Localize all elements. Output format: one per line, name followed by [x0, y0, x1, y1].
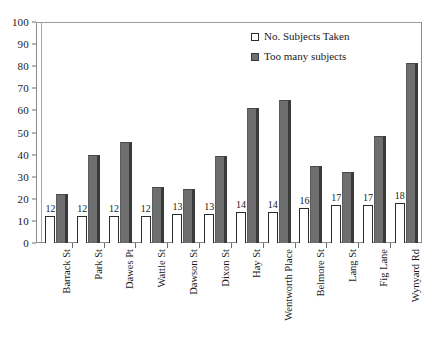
- y-axis: 0102030405060708090100: [0, 22, 36, 243]
- bar-value-label: 13: [172, 202, 182, 212]
- y-axis-tick-mark: [32, 66, 36, 67]
- y-axis-tick: 20: [18, 193, 36, 204]
- legend-item-label: Too many subjects: [264, 51, 346, 62]
- x-axis-category-label: Dawson St: [189, 249, 200, 295]
- bars-layer: 121212121313141416171718: [41, 22, 422, 243]
- bar-too-many-subjects: [279, 100, 291, 243]
- x-axis-labels: Barrack StPark StDawes PtWattle StDawson…: [41, 249, 422, 345]
- bar-subjects-taken: 12: [109, 216, 119, 243]
- y-axis-tick: 40: [18, 149, 36, 160]
- y-axis-tick-label: 70: [18, 83, 32, 94]
- y-axis-tick-label: 60: [18, 105, 32, 116]
- x-axis-label-cell: Wynyard Rd: [390, 249, 422, 345]
- y-axis-tick: 90: [18, 39, 36, 50]
- filled-square-icon: [251, 53, 259, 61]
- bar-too-many-subjects: [406, 63, 418, 243]
- x-axis-tick-mark: [200, 243, 232, 248]
- bar-value-label: 17: [363, 193, 373, 203]
- x-axis-tick-mark: [296, 243, 328, 248]
- x-axis-label-cell: Dixon St: [200, 249, 232, 345]
- bar-too-many-subjects: [247, 108, 259, 243]
- y-axis-tick-label: 30: [18, 171, 32, 182]
- x-axis-label-cell: Belmore St: [295, 249, 327, 345]
- y-axis-tick-label: 0: [23, 238, 32, 249]
- bar-subjects-taken: 14: [268, 212, 278, 243]
- y-axis-tick-label: 100: [12, 17, 32, 28]
- bar-too-many-subjects: [310, 166, 322, 243]
- bar-subjects-taken: 17: [363, 205, 373, 243]
- x-axis-category-label: Lang St: [348, 249, 359, 282]
- bar-group: 13: [168, 22, 200, 243]
- y-axis-tick: 60: [18, 105, 36, 116]
- y-axis-tick-mark: [32, 220, 36, 221]
- x-axis-category-label: Wynyard Rd: [411, 249, 422, 302]
- y-axis-tick: 0: [23, 238, 36, 249]
- x-axis-category-label: Dixon St: [221, 249, 232, 287]
- y-axis-tick-mark: [32, 44, 36, 45]
- x-axis-label-cell: Lang St: [327, 249, 359, 345]
- x-axis-category-label: Barrack St: [62, 249, 73, 294]
- x-axis-label-cell: Hay St: [232, 249, 264, 345]
- x-axis-category-label: Fig Lane: [380, 249, 391, 287]
- legend-item: Too many subjects: [251, 51, 350, 62]
- y-axis-tick-label: 10: [18, 215, 32, 226]
- bar-too-many-subjects: [120, 142, 132, 243]
- bar-subjects-taken: 18: [395, 203, 405, 243]
- bar-value-label: 12: [141, 204, 151, 214]
- x-axis-category-label: Wentworth Place: [284, 249, 295, 321]
- x-axis-label-cell: Dawson St: [168, 249, 200, 345]
- x-axis-label-cell: Fig Lane: [359, 249, 391, 345]
- x-axis-tick-mark: [264, 243, 296, 248]
- x-axis-tick-mark: [105, 243, 137, 248]
- x-axis-category-label: Park St: [94, 249, 105, 280]
- bar-subjects-taken: 13: [204, 214, 214, 243]
- y-axis-tick: 100: [12, 17, 36, 28]
- y-axis-tick-mark: [32, 22, 36, 23]
- x-axis-tick-mark: [41, 243, 73, 248]
- x-axis-tick-mark: [136, 243, 168, 248]
- bar-subjects-taken: 14: [236, 212, 246, 243]
- y-axis-tick-label: 90: [18, 39, 32, 50]
- y-axis-tick-mark: [32, 88, 36, 89]
- bar-too-many-subjects: [56, 194, 68, 243]
- bar-value-label: 14: [268, 200, 278, 210]
- bar-subjects-taken: 12: [45, 216, 55, 243]
- y-axis-tick-label: 80: [18, 61, 32, 72]
- y-axis-tick-mark: [32, 154, 36, 155]
- bar-value-label: 18: [395, 191, 405, 201]
- bar-value-label: 14: [236, 200, 246, 210]
- y-axis-tick-mark: [32, 198, 36, 199]
- y-axis-tick-label: 40: [18, 149, 32, 160]
- bar-too-many-subjects: [88, 155, 100, 243]
- y-axis-tick-label: 20: [18, 193, 32, 204]
- x-axis-tick-mark: [391, 243, 422, 248]
- x-axis-tick-mark: [168, 243, 200, 248]
- x-axis-category-label: Dawes Pt: [126, 249, 137, 289]
- x-axis-label-cell: Barrack St: [41, 249, 73, 345]
- x-axis-ticks: [41, 243, 422, 248]
- bar-group: 13: [200, 22, 232, 243]
- bar-too-many-subjects: [374, 136, 386, 243]
- bar-too-many-subjects: [152, 187, 164, 243]
- bar-subjects-taken: 13: [172, 214, 182, 243]
- x-axis-category-label: Belmore St: [316, 249, 327, 297]
- bar-value-label: 13: [204, 202, 214, 212]
- bar-too-many-subjects: [215, 156, 227, 243]
- bar-value-label: 17: [331, 193, 341, 203]
- chart-legend: No. Subjects TakenToo many subjects: [251, 31, 350, 62]
- x-axis-category-label: Wattle St: [157, 249, 168, 288]
- x-axis-tick-mark: [232, 243, 264, 248]
- bar-group: 17: [359, 22, 391, 243]
- y-axis-tick: 30: [18, 171, 36, 182]
- legend-item: No. Subjects Taken: [251, 31, 350, 42]
- bar-too-many-subjects: [342, 172, 354, 243]
- x-axis-label-cell: Wentworth Place: [263, 249, 295, 345]
- y-axis-tick: 80: [18, 61, 36, 72]
- bar-subjects-taken: 16: [299, 208, 309, 243]
- bar-value-label: 12: [45, 204, 55, 214]
- bar-subjects-taken: 12: [77, 216, 87, 243]
- y-axis-tick: 10: [18, 215, 36, 226]
- bar-subjects-taken: 17: [331, 205, 341, 243]
- x-axis-label-cell: Dawes Pt: [105, 249, 137, 345]
- x-axis-category-label: Hay St: [253, 249, 264, 278]
